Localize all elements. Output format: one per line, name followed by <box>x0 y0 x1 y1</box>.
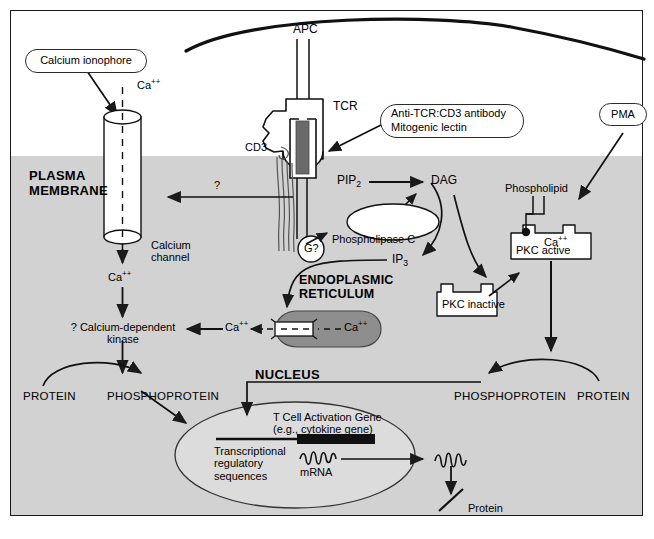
phospholipid-label: Phospholipid <box>505 182 568 194</box>
calcium-channel-cylinder-icon <box>104 87 141 263</box>
phospholipase-c-label: Phospholipase C <box>332 233 415 245</box>
pkc-inactive-label: PKC inactive <box>442 298 505 310</box>
cd3-label: CD3 <box>245 141 267 153</box>
plasma-membrane-label: PLASMA MEMBRANE <box>29 169 108 198</box>
mrna-label: mRNA <box>300 466 332 478</box>
phosphoprotein-label-left: PHOSPHOPROTEIN <box>107 390 219 403</box>
t-cell-activation-gene-label: T Cell Activation Gene (e.g., cytokine g… <box>273 411 382 436</box>
calcium-channel-label: Calcium channel <box>151 239 191 264</box>
pma-arrow <box>579 133 623 199</box>
callout-calcium-ionophore-line1: Calcium ionophore <box>36 54 136 68</box>
tcr-receptor-icon <box>263 39 323 239</box>
er-calcium-label-inside: Ca++ <box>344 321 367 333</box>
protein-label-right: PROTEIN <box>577 390 630 403</box>
unknown-signal-label: ? <box>214 179 220 191</box>
phosphoprotein-label-right: PHOSPHOPROTEIN <box>454 390 566 403</box>
figure-frame: APC TCR CD3 G? Calcium ionophore Anti-TC… <box>10 10 643 516</box>
pip2-label: PIP2 <box>337 174 361 187</box>
diagram-vectors <box>11 11 644 517</box>
ip3-label: IP3 <box>392 253 408 266</box>
pkc-active-label: PKC active <box>516 244 570 256</box>
dag-to-pkc-arrow <box>454 195 486 277</box>
anti-tcr-antibody-arrow <box>329 124 383 151</box>
tcr-label: TCR <box>333 100 358 113</box>
transcriptional-regulatory-label: Transcriptional regulatory sequences <box>214 445 286 482</box>
dag-label: DAG <box>431 174 457 187</box>
callout-antibody-line2: Mitogenic lectin <box>391 121 513 135</box>
callout-antibody-line1: Anti-TCR:CD3 antibody <box>391 107 513 121</box>
figure-canvas: APC TCR CD3 G? Calcium ionophore Anti-TC… <box>0 0 654 539</box>
callout-pma-line1: PMA <box>610 108 636 122</box>
protein-squiggle-icon <box>435 453 466 467</box>
er-calcium-channel-icon <box>271 319 317 339</box>
er-calcium-label: Ca++ <box>225 321 248 333</box>
calcium-label-extracellular: Ca++ <box>137 79 160 91</box>
calcium-dependent-kinase-label: ? Calcium-dependent kinase <box>25 321 221 346</box>
nucleus-label: NUCLEUS <box>255 368 320 383</box>
apc-label: APC <box>293 23 318 36</box>
callout-pma[interactable]: PMA <box>599 103 647 126</box>
callout-anti-tcr-cd3-antibody[interactable]: Anti-TCR:CD3 antibody Mitogenic lectin <box>380 104 524 138</box>
protein-label-left: PROTEIN <box>23 390 76 403</box>
callout-calcium-ionophore[interactable]: Calcium ionophore <box>25 49 147 73</box>
g-protein-label: G? <box>304 242 319 254</box>
endoplasmic-reticulum-label: ENDOPLASMIC RETICULUM <box>299 273 394 301</box>
apc-membrane-curve-icon <box>186 19 644 59</box>
protein-phosphorylation-arrow-right <box>489 359 599 381</box>
calcium-label-intracellular: Ca++ <box>108 271 131 283</box>
protein-product-label: Protein <box>468 502 503 514</box>
protein-phosphorylation-arrow-left <box>43 363 141 386</box>
calcium-ionophore-arrow <box>87 71 117 115</box>
